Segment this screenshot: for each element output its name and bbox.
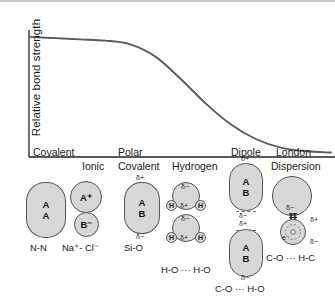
category-label-ionic: Ionic xyxy=(82,160,104,172)
delta-london-right-upper: δ+ xyxy=(310,216,318,224)
dipole-interaction-gap: δ− δ+ xyxy=(236,211,256,231)
category-label-london-line2: Dispersion xyxy=(271,160,321,172)
electron-label-london: e⁻ xyxy=(282,234,290,242)
formula-hydrogen: H-O ··· H-O xyxy=(161,264,211,275)
formula-polar-covalent: Si-O xyxy=(124,242,143,253)
formula-london-dispersion: C-O ··· H-C xyxy=(266,252,315,263)
top-rule xyxy=(0,0,335,2)
atom-label-dipole-b1: B xyxy=(243,187,250,198)
hydrogen-atom-1b: H xyxy=(195,200,206,211)
delta-gap-lower: δ+ xyxy=(239,220,247,228)
molecule-water-2: δ− H H δ+ xyxy=(166,214,210,246)
y-axis-label: Relative bond strength xyxy=(28,0,44,12)
hydrogen-atom-2a: H xyxy=(166,232,177,243)
category-label-polar-covalent-line1: Polar xyxy=(118,146,143,158)
bond-strength-curve xyxy=(30,37,331,153)
ion-anion: B⁻ xyxy=(74,212,99,237)
atom-label-b: B xyxy=(139,208,146,219)
delta-london-large: δ− xyxy=(286,204,294,212)
atom-label-a2: A xyxy=(43,210,50,221)
chart-plot-area xyxy=(28,28,335,159)
delta-dipole-top: δ+ xyxy=(241,155,249,163)
molecule-dipole-1: A B xyxy=(229,163,263,211)
atom-label-a1: A xyxy=(43,199,50,210)
formula-covalent: N-N xyxy=(30,242,47,253)
delta-hydrogen-2: δ+ xyxy=(180,234,188,242)
atom-label-dipole-a2: A xyxy=(243,242,250,253)
formula-dipole: C-O ··· H-O xyxy=(215,283,265,294)
bond-strength-chart: Relative bond strength xyxy=(28,12,335,143)
delta-oxygen-2: δ− xyxy=(181,215,189,223)
molecule-covalent: A A xyxy=(26,182,66,238)
hydrogen-atom-1a: H xyxy=(166,200,177,211)
figure-root: Relative bond strength Covalent Ionic Po… xyxy=(0,0,335,302)
delta-london-right-lower: δ− xyxy=(310,238,318,246)
category-label-hydrogen: Hydrogen xyxy=(172,160,218,172)
delta-oxygen-1: δ− xyxy=(181,183,189,191)
delta-dipole-bottom: δ− xyxy=(241,274,249,282)
formula-ionic: Na⁺- Cl⁻ xyxy=(62,242,99,253)
atom-label-dipole-a1: A xyxy=(243,176,250,187)
molecule-polar-covalent: A B xyxy=(124,182,160,234)
molecule-dipole-2: A B xyxy=(229,229,263,277)
delta-polar-top: δ+ xyxy=(136,174,144,182)
molecule-water-1: δ− H H δ+ xyxy=(166,182,210,214)
delta-polar-bottom: δ− xyxy=(136,233,144,241)
atom-label-a: A xyxy=(139,197,146,208)
atom-label-dipole-b2: B xyxy=(243,253,250,264)
category-label-polar-covalent-line2: Covalent xyxy=(118,160,159,172)
category-label-london-line1: London xyxy=(276,146,311,158)
delta-gap-upper: δ− xyxy=(239,212,247,220)
delta-hydrogen-1: δ+ xyxy=(180,202,188,210)
ion-cation: A⁺ xyxy=(70,181,102,213)
category-label-covalent: Covalent xyxy=(33,146,74,158)
hydrogen-atom-2b: H xyxy=(195,232,206,243)
